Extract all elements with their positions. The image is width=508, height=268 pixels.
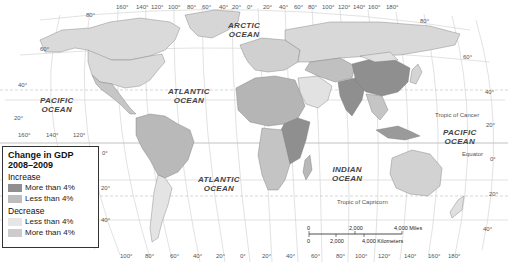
lat-label: 0° xyxy=(490,156,496,162)
lat-label: 0° xyxy=(102,150,108,156)
legend-item-decrease-less: Less than 4% xyxy=(8,216,93,227)
lon-label: 80° xyxy=(336,253,345,259)
lon-label: 20° xyxy=(216,253,225,259)
scale-km-max: 4,000 Kilometers xyxy=(362,238,403,244)
lon-label: 40° xyxy=(193,253,202,259)
ocean-name: ATLANTIC xyxy=(198,175,240,184)
lat-label: 40° xyxy=(485,89,494,95)
tropic-of-cancer-label: Tropic of Cancer xyxy=(435,112,479,118)
africa-north xyxy=(236,76,305,126)
lon-label: 60° xyxy=(202,4,211,10)
southeast-asia xyxy=(366,94,388,120)
legend-item-label: More than 4% xyxy=(25,183,75,192)
scale-km-zero: 0 xyxy=(307,238,310,244)
lon-label: 60° xyxy=(170,253,179,259)
scale-miles-mid: 2,000 xyxy=(349,225,363,231)
scale-miles-max: 4,000 Miles xyxy=(394,225,422,231)
indonesia xyxy=(376,126,420,140)
lon-label: 180° xyxy=(386,4,398,10)
lon-label: 20° xyxy=(232,4,241,10)
australia xyxy=(390,150,442,196)
lon-label: 120° xyxy=(73,132,85,138)
ocean-name: PACIFIC xyxy=(40,96,74,105)
legend: Change in GDP 2008–2009 Increase More th… xyxy=(2,146,99,248)
lon-label: 160° xyxy=(116,4,128,10)
lon-label: 60° xyxy=(311,253,320,259)
lon-label: 100° xyxy=(168,4,180,10)
ocean-name: OCEAN xyxy=(332,174,362,183)
lon-label: 20° xyxy=(262,253,271,259)
lon-label: 140° xyxy=(46,132,58,138)
lon-label: 140° xyxy=(404,253,416,259)
ocean-name: OCEAN xyxy=(443,137,477,146)
lon-label: 140° xyxy=(353,4,365,10)
legend-item-decrease-more: More than 4% xyxy=(8,227,93,238)
lon-label: 80° xyxy=(145,253,154,259)
lon-label: 180° xyxy=(448,253,460,259)
lon-label: 160° xyxy=(428,253,440,259)
legend-title-line: Change in GDP xyxy=(8,150,93,160)
lon-label: 140° xyxy=(136,4,148,10)
new-zealand xyxy=(450,196,464,218)
japan xyxy=(410,64,422,84)
lon-label: 80° xyxy=(187,4,196,10)
lon-label: 80° xyxy=(308,4,317,10)
legend-group-increase-label: Increase xyxy=(8,172,93,182)
legend-group-decrease-label: Decrease xyxy=(8,206,93,216)
ocean-label-pacific-west: PACIFIC OCEAN xyxy=(40,96,74,114)
swatch-medium xyxy=(8,195,22,203)
south-america-north xyxy=(136,114,194,178)
legend-item-increase-less: Less than 4% xyxy=(8,193,93,204)
lat-label: 40° xyxy=(18,82,27,88)
lat-label: 40° xyxy=(101,217,110,223)
ocean-name: ARCTIC xyxy=(228,21,260,30)
ocean-name: OCEAN xyxy=(40,105,74,114)
lon-label: 20° xyxy=(263,4,272,10)
legend-title-line: 2008–2009 xyxy=(8,160,93,170)
lat-label: 60° xyxy=(40,46,49,52)
lon-label: 160° xyxy=(18,132,30,138)
ocean-name: OCEAN xyxy=(168,96,210,105)
tropic-of-capricorn-label: Tropic of Capricorn xyxy=(337,199,388,205)
lat-label: 80° xyxy=(420,18,429,24)
lon-label: 0° xyxy=(240,253,246,259)
ocean-name: PACIFIC xyxy=(443,128,477,137)
north-america-canada xyxy=(40,18,180,60)
lon-label: 0° xyxy=(247,4,253,10)
scale-miles-zero: 0 xyxy=(307,225,310,231)
ocean-label-indian: INDIAN OCEAN xyxy=(332,165,362,183)
lon-label: 120° xyxy=(151,4,163,10)
lat-label: 20° xyxy=(101,185,110,191)
lon-label: 40° xyxy=(279,4,288,10)
lon-label: 40° xyxy=(286,253,295,259)
lat-label: 20° xyxy=(486,122,495,128)
legend-item-label: Less than 4% xyxy=(25,217,73,226)
legend-item-increase-more: More than 4% xyxy=(8,182,93,193)
lon-label: 100° xyxy=(322,4,334,10)
lat-label: 20° xyxy=(14,115,23,121)
lon-label: 120° xyxy=(378,253,390,259)
south-america-south xyxy=(150,175,172,242)
madagascar xyxy=(303,155,312,180)
legend-item-label: More than 4% xyxy=(25,228,75,237)
ocean-name: INDIAN xyxy=(332,165,362,174)
swatch-dark xyxy=(8,184,22,192)
ocean-label-pacific-east: PACIFIC OCEAN xyxy=(443,128,477,146)
legend-item-label: Less than 4% xyxy=(25,194,73,203)
lat-label: 60° xyxy=(463,54,472,60)
ocean-name: OCEAN xyxy=(228,30,260,39)
legend-title: Change in GDP 2008–2009 xyxy=(8,150,93,170)
ocean-name: ATLANTIC xyxy=(168,87,210,96)
lon-label: 60° xyxy=(294,4,303,10)
swatch-light xyxy=(8,218,22,226)
lon-label: 160° xyxy=(368,4,380,10)
ocean-label-arctic: ARCTIC OCEAN xyxy=(228,21,260,39)
equator-label: Equator xyxy=(462,151,483,157)
scale-bar: 0 2,000 4,000 Miles 0 2,000 4,000 Kilome… xyxy=(306,225,426,247)
scale-km-mid: 2,000 xyxy=(330,238,344,244)
ocean-label-atlantic-north: ATLANTIC OCEAN xyxy=(168,87,210,105)
lon-label: 40° xyxy=(219,4,228,10)
lat-label: 40° xyxy=(483,226,492,232)
lat-label: 80° xyxy=(86,12,95,18)
lon-label: 120° xyxy=(338,4,350,10)
